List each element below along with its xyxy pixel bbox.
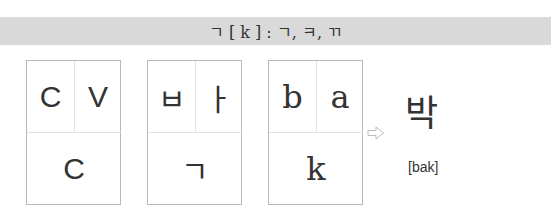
header-title: ㄱ [ k ] : ㄱ, ㅋ, ㄲ xyxy=(209,19,342,43)
hangul-card: ㅂ ㅏ ㄱ xyxy=(147,60,242,205)
pattern-initial-consonant: C xyxy=(27,61,75,133)
roman-vowel: a xyxy=(317,61,363,133)
hangul-initial-consonant: ㅂ xyxy=(148,61,196,133)
roman-card: b a k xyxy=(268,60,363,205)
result-syllable: 박 xyxy=(405,84,465,136)
roman-final-consonant: k xyxy=(269,133,363,205)
hangul-final-consonant: ㄱ xyxy=(148,133,242,205)
pattern-vowel: V xyxy=(75,61,121,133)
right-arrow-outline-icon xyxy=(367,125,385,139)
header-bar: ㄱ [ k ] : ㄱ, ㅋ, ㄲ xyxy=(0,17,551,45)
hangul-vowel: ㅏ xyxy=(196,61,242,133)
result-romanization: [bak] xyxy=(408,159,438,175)
pattern-card: C V C xyxy=(26,60,121,205)
roman-initial-consonant: b xyxy=(269,61,317,133)
pattern-final-consonant: C xyxy=(27,133,121,205)
